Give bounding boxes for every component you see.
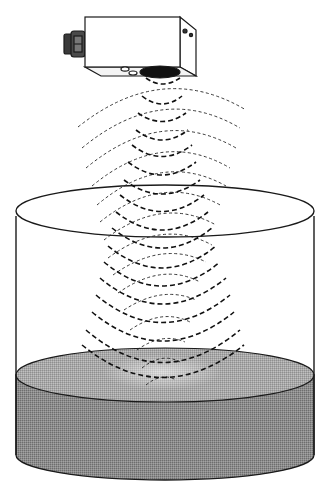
liquid bbox=[16, 348, 314, 480]
emitted-waves bbox=[82, 78, 244, 378]
diagram-canvas bbox=[0, 0, 328, 486]
mounting-hole bbox=[129, 71, 137, 75]
transducer-face bbox=[140, 66, 180, 78]
sensor bbox=[64, 17, 196, 78]
sensor-side-face bbox=[180, 17, 196, 76]
screw bbox=[183, 29, 187, 33]
connector bbox=[64, 31, 85, 57]
sensor-front-face bbox=[85, 17, 180, 67]
screw bbox=[189, 33, 192, 36]
liquid-surface-glare bbox=[102, 354, 222, 390]
mounting-hole bbox=[121, 67, 129, 71]
